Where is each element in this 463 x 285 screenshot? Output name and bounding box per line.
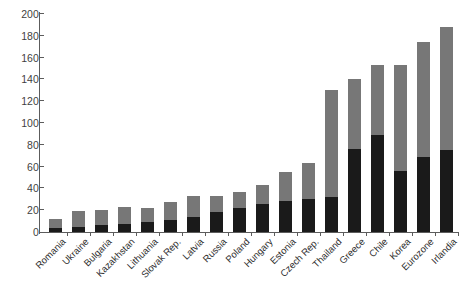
bar-segment-upper bbox=[233, 192, 246, 208]
bar-segment-upper bbox=[394, 65, 407, 171]
bar-kazakhstan[interactable] bbox=[118, 207, 131, 232]
bar-russia[interactable] bbox=[210, 196, 223, 232]
bar-estonia[interactable] bbox=[279, 172, 292, 232]
bar-segment-upper bbox=[325, 90, 338, 197]
bar-segment-lower bbox=[440, 150, 453, 232]
bar-segment-lower bbox=[325, 197, 338, 232]
bar-segment-upper bbox=[371, 65, 384, 135]
bar-segment-upper bbox=[440, 27, 453, 150]
bar-segment-upper bbox=[141, 208, 154, 222]
bar-czech-rep[interactable] bbox=[302, 163, 315, 232]
bar-segment-lower bbox=[417, 157, 430, 232]
bar-segment-lower bbox=[371, 135, 384, 232]
bar-greece[interactable] bbox=[348, 79, 361, 232]
bar-irlandia[interactable] bbox=[440, 27, 453, 232]
bar-segment-upper bbox=[417, 42, 430, 156]
bar-segment-upper bbox=[279, 172, 292, 201]
bar-hungary[interactable] bbox=[256, 185, 269, 232]
bar-segment-lower bbox=[233, 208, 246, 232]
bar-segment-lower bbox=[394, 171, 407, 232]
bar-segment-lower bbox=[72, 227, 85, 232]
bar-segment-lower bbox=[141, 222, 154, 232]
bars-layer bbox=[0, 0, 463, 285]
bar-poland[interactable] bbox=[233, 192, 246, 232]
bar-segment-upper bbox=[256, 185, 269, 204]
bar-thailand[interactable] bbox=[325, 90, 338, 232]
bar-segment-lower bbox=[210, 212, 223, 232]
bar-bulgaria[interactable] bbox=[95, 210, 108, 232]
bar-segment-lower bbox=[95, 225, 108, 232]
bar-eurozone[interactable] bbox=[417, 42, 430, 232]
bar-segment-lower bbox=[164, 220, 177, 232]
bar-chile[interactable] bbox=[371, 65, 384, 232]
bar-romania[interactable] bbox=[49, 219, 62, 232]
bar-segment-lower bbox=[256, 204, 269, 232]
bar-segment-upper bbox=[210, 196, 223, 212]
bar-segment-upper bbox=[49, 219, 62, 228]
bar-segment-lower bbox=[302, 199, 315, 232]
bar-segment-upper bbox=[348, 79, 361, 149]
bar-ukraine[interactable] bbox=[72, 211, 85, 232]
bar-segment-upper bbox=[164, 202, 177, 221]
bar-segment-lower bbox=[49, 228, 62, 232]
bar-segment-upper bbox=[118, 207, 131, 224]
bar-segment-lower bbox=[118, 224, 131, 232]
bar-lithuania[interactable] bbox=[141, 208, 154, 232]
stacked-bar-chart: 020406080100120140160180200 RomaniaUkrai… bbox=[0, 0, 463, 285]
bar-slovak-rep[interactable] bbox=[164, 201, 177, 232]
bar-segment-upper bbox=[95, 210, 108, 225]
bar-segment-lower bbox=[348, 149, 361, 232]
bar-segment-upper bbox=[302, 163, 315, 199]
bar-segment-upper bbox=[72, 211, 85, 226]
bar-korea[interactable] bbox=[394, 65, 407, 232]
bar-segment-lower bbox=[187, 217, 200, 232]
bar-latvia[interactable] bbox=[187, 196, 200, 232]
bar-segment-lower bbox=[279, 201, 292, 232]
bar-segment-upper bbox=[187, 196, 200, 217]
